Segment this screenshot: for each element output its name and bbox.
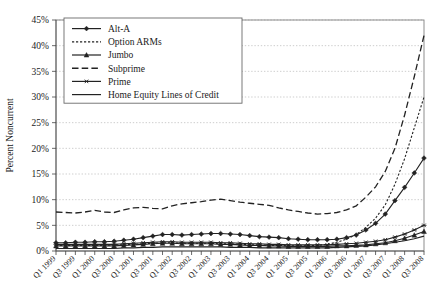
- y-tick-label: 20%: [32, 144, 50, 154]
- y-axis-title-text: Percent Noncurrent: [5, 98, 15, 172]
- series-marker-diamond: [189, 232, 194, 237]
- series-marker-diamond: [334, 237, 339, 242]
- series-marker-diamond: [276, 235, 281, 240]
- series-marker-diamond: [218, 231, 223, 236]
- series-marker-diamond: [325, 237, 330, 242]
- line-chart: 0%5%10%15%20%25%30%35%40%45% Percent Non…: [0, 0, 444, 300]
- series-marker-diamond: [257, 234, 262, 239]
- series-marker-diamond: [228, 232, 233, 237]
- y-axis-ticks: 0%5%10%15%20%25%30%35%40%45%: [32, 15, 56, 256]
- series-marker-diamond: [286, 236, 291, 241]
- y-tick-label: 0%: [36, 246, 49, 256]
- series-marker-diamond: [131, 237, 136, 242]
- series-marker-asterisk: [412, 228, 417, 232]
- y-tick-label: 35%: [32, 67, 50, 77]
- series-marker-diamond: [150, 234, 155, 239]
- series-option-arms: [56, 97, 424, 246]
- legend-label: Home Equity Lines of Credit: [108, 90, 219, 100]
- series-marker-triangle: [422, 229, 427, 233]
- series-marker-diamond: [199, 232, 204, 237]
- series-marker-diamond: [141, 235, 146, 240]
- series-marker-diamond: [170, 232, 175, 237]
- chart-legend: Alt-AOption ARMsJumboSubprimePrimeHome E…: [64, 18, 242, 103]
- series-marker-diamond: [296, 237, 301, 242]
- y-tick-label: 40%: [32, 41, 50, 51]
- y-tick-label: 45%: [32, 15, 50, 25]
- legend-label: Alt-A: [108, 24, 130, 34]
- series-marker-diamond: [121, 238, 126, 243]
- series-line: [56, 158, 424, 243]
- x-axis-labels: Q1 1999Q3 1999Q1 2000Q3 2000Q1 2001Q3 20…: [31, 254, 425, 280]
- y-tick-label: 5%: [36, 221, 49, 231]
- legend-label: Prime: [108, 77, 131, 87]
- y-tick-label: 10%: [32, 195, 50, 205]
- series-marker-diamond: [238, 232, 243, 237]
- series-marker-diamond: [315, 237, 320, 242]
- series-marker-diamond: [305, 237, 310, 242]
- series-alt-a: [54, 156, 427, 246]
- series-marker-diamond: [160, 232, 165, 237]
- series-marker-diamond: [247, 233, 252, 238]
- series-marker-diamond: [209, 231, 214, 236]
- y-tick-label: 25%: [32, 118, 50, 128]
- series-line: [56, 97, 424, 246]
- series-marker-diamond: [267, 235, 272, 240]
- legend-label: Jumbo: [108, 50, 134, 60]
- x-axis-ticks: [56, 251, 424, 255]
- y-tick-label: 30%: [32, 92, 50, 102]
- legend-label: Subprime: [108, 64, 145, 74]
- series-marker-diamond: [179, 233, 184, 238]
- chart-container: 0%5%10%15%20%25%30%35%40%45% Percent Non…: [0, 0, 444, 300]
- y-tick-label: 15%: [32, 169, 50, 179]
- y-axis-title: Percent Noncurrent: [5, 98, 15, 172]
- legend-label: Option ARMs: [108, 37, 162, 47]
